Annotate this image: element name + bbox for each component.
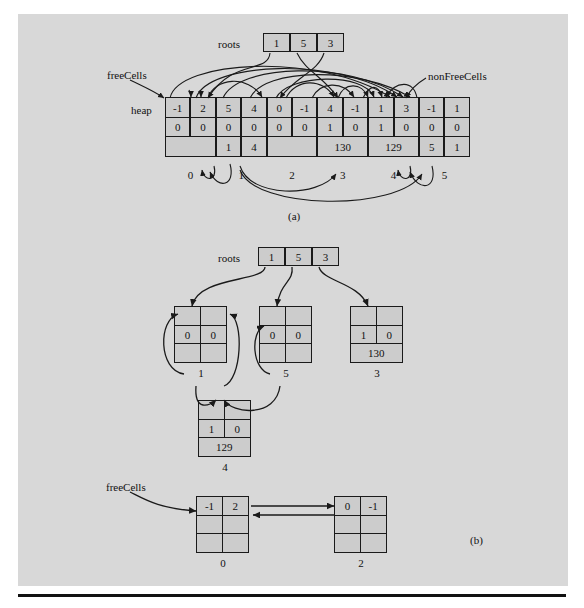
non-free-cells-label-a: nonFreeCells (428, 70, 487, 82)
roots-label-b: roots (218, 252, 240, 264)
node-2-index-label: 2 (334, 557, 388, 569)
node-3-mid-left: 1 (350, 325, 377, 345)
page-horizontal-rule (18, 594, 566, 597)
roots-cell-a-1: 5 (290, 33, 317, 52)
heap-cell-r2-9: 0 (394, 117, 419, 138)
node-1-index-label: 1 (174, 367, 228, 379)
heap-cell-r2-2: 0 (216, 117, 241, 138)
free-cells-label-a: freeCells (107, 69, 147, 81)
node-5-top-right (285, 306, 312, 326)
caption-b: (b) (470, 534, 483, 546)
node-3-top-right (376, 306, 403, 326)
node-3-mid-right: 0 (376, 325, 403, 345)
heap-cell-r3-4: 130 (317, 136, 368, 157)
heap-cell-r1-4: 0 (267, 97, 292, 118)
heap-index-1: 1 (216, 169, 267, 181)
node-3-index-label: 3 (350, 367, 404, 379)
node-2-mid-left (334, 515, 361, 535)
heap-cell-r3-3 (267, 136, 318, 157)
node-0-bottom-right (222, 533, 249, 553)
heap-cell-r1-5: -1 (292, 97, 317, 118)
node-0-mid-left (196, 515, 223, 535)
heap-cell-r2-4: 0 (267, 117, 292, 138)
node-4-index-label: 4 (198, 461, 252, 473)
heap-cell-r2-0: 0 (165, 117, 190, 138)
roots-cell-a-2: 3 (317, 33, 344, 52)
node-1-top-left (174, 306, 201, 326)
node-5-index-label: 5 (259, 367, 313, 379)
heap-cell-r3-0 (165, 136, 216, 157)
heap-cell-r1-3: 4 (241, 97, 266, 118)
heap-cell-r2-7: 0 (343, 117, 368, 138)
node-2-bottom-right (360, 533, 387, 553)
heap-cell-r1-1: 2 (190, 97, 215, 118)
heap-cell-r1-6: 4 (317, 97, 342, 118)
node-4-mid-left: 1 (198, 419, 225, 439)
node-0-index-label: 0 (196, 557, 250, 569)
node-1-mid-right: 0 (200, 325, 227, 345)
node-5-top-left (259, 306, 286, 326)
heap-cell-r1-8: 1 (368, 97, 393, 118)
heap-index-5: 5 (419, 169, 470, 181)
heap-cell-r3-6: 5 (419, 136, 444, 157)
roots-cell-b-1: 5 (285, 247, 312, 266)
node-5-bottom-left (259, 343, 286, 363)
heap-cell-r2-6: 1 (317, 117, 342, 138)
heap-cell-r3-7: 1 (444, 136, 469, 157)
heap-cell-r3-5: 129 (368, 136, 419, 157)
heap-index-3: 3 (317, 169, 368, 181)
node-4-bottom: 129 (198, 437, 251, 457)
node-0-top-right: 2 (222, 496, 249, 516)
roots-label-a: roots (218, 38, 240, 50)
heap-cell-r2-10: 0 (419, 117, 444, 138)
heap-cell-r1-11: 1 (444, 97, 469, 118)
node-5-bottom-right (285, 343, 312, 363)
node-0-mid-right (222, 515, 249, 535)
node-1-bottom-left (174, 343, 201, 363)
heap-cell-r2-5: 0 (292, 117, 317, 138)
roots-cell-a-0: 1 (263, 33, 290, 52)
node-3-top-left (350, 306, 377, 326)
heap-cell-r2-8: 1 (368, 117, 393, 138)
figure-panel: roots 1 5 3 freeCells nonFreeCells heap … (18, 14, 568, 586)
node-0-top-left: -1 (196, 496, 223, 516)
node-4-top-right (224, 400, 251, 420)
heap-cell-r2-11: 0 (444, 117, 469, 138)
heap-cell-r1-10: -1 (419, 97, 444, 118)
heap-index-0: 0 (165, 169, 216, 181)
node-1-bottom-right (200, 343, 227, 363)
node-4-top-left (198, 400, 225, 420)
node-0-bottom-left (196, 533, 223, 553)
node-1-top-right (200, 306, 227, 326)
node-5-mid-right: 0 (285, 325, 312, 345)
caption-a: (a) (288, 210, 300, 222)
node-5-mid-left: 0 (259, 325, 286, 345)
roots-cell-b-0: 1 (258, 247, 285, 266)
node-1-mid-left: 0 (174, 325, 201, 345)
heap-cell-r3-2: 4 (241, 136, 266, 157)
heap-index-4: 4 (368, 169, 419, 181)
heap-cell-r2-1: 0 (190, 117, 215, 138)
heap-cell-r1-9: 3 (394, 97, 419, 118)
free-cells-label-b: freeCells (106, 481, 146, 493)
node-4-mid-right: 0 (224, 419, 251, 439)
node-3-bottom: 130 (350, 343, 403, 363)
roots-cell-b-2: 3 (312, 247, 339, 266)
heap-cell-r1-7: -1 (343, 97, 368, 118)
heap-label: heap (131, 104, 152, 116)
heap-cell-r3-1: 1 (216, 136, 241, 157)
heap-cell-r2-3: 0 (241, 117, 266, 138)
node-2-top-left: 0 (334, 496, 361, 516)
heap-index-2: 2 (267, 169, 318, 181)
node-2-top-right: -1 (360, 496, 387, 516)
node-2-bottom-left (334, 533, 361, 553)
heap-cell-r1-0: -1 (165, 97, 190, 118)
node-2-mid-right (360, 515, 387, 535)
heap-cell-r1-2: 5 (216, 97, 241, 118)
